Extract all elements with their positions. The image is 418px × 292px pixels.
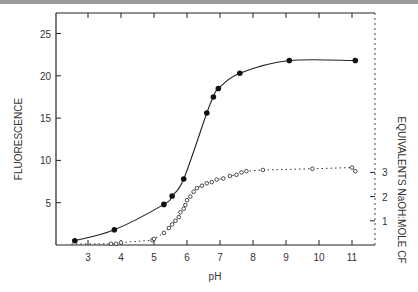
data-point — [200, 184, 204, 188]
data-point — [216, 86, 222, 92]
data-point — [222, 177, 226, 181]
data-point — [261, 168, 265, 172]
data-point — [215, 178, 219, 182]
fluorescence-series — [72, 58, 358, 244]
x-tick-label: 10 — [313, 252, 325, 263]
x-tick-label: 11 — [347, 252, 358, 263]
y-axis-title: FLUORESCENCE — [13, 98, 24, 181]
y2-tick-label: 2 — [382, 192, 388, 203]
y-axis-ticks: 510152025 — [40, 29, 61, 209]
y-tick-label: 20 — [40, 71, 52, 82]
x-axis-title: pH — [209, 271, 222, 282]
x-tick-label: 4 — [118, 252, 124, 263]
data-point — [235, 173, 239, 177]
data-point — [179, 211, 183, 215]
data-point — [240, 171, 244, 175]
data-point — [119, 241, 123, 245]
data-point — [237, 70, 243, 76]
plot-frame — [56, 13, 375, 245]
data-point — [354, 169, 358, 173]
data-point — [287, 58, 293, 64]
data-point — [353, 58, 359, 64]
data-point — [182, 207, 186, 211]
data-point — [210, 180, 214, 184]
data-point — [167, 226, 171, 230]
data-point — [181, 176, 187, 182]
y2-tick-label: 3 — [382, 167, 388, 178]
x-tick-label: 3 — [85, 252, 91, 263]
data-point — [161, 202, 167, 208]
y-tick-label: 5 — [45, 198, 51, 209]
y-tick-label: 25 — [40, 29, 52, 40]
data-point — [205, 181, 209, 185]
equivalents-series — [72, 166, 358, 246]
data-point — [162, 231, 166, 235]
y2-tick-label: 1 — [382, 216, 388, 227]
data-point — [228, 174, 232, 178]
data-point — [72, 238, 78, 244]
y2-axis-title: EQUIVALENTS NaOH:MOLE CF — [396, 116, 407, 263]
data-point — [169, 193, 175, 199]
data-point — [184, 203, 188, 207]
data-point — [109, 242, 113, 246]
data-point — [170, 223, 174, 227]
data-point — [350, 166, 354, 170]
y-tick-label: 15 — [40, 113, 52, 124]
x-tick-label: 5 — [151, 252, 157, 263]
data-point — [204, 110, 210, 116]
y-tick-label: 10 — [40, 155, 52, 166]
data-point — [245, 169, 249, 173]
data-point — [211, 94, 217, 100]
data-point — [112, 227, 118, 233]
data-point — [185, 198, 189, 202]
y2-axis-ticks: 123 — [370, 167, 388, 226]
x-tick-label: 7 — [217, 252, 223, 263]
data-point — [189, 195, 193, 199]
x-tick-label: 6 — [184, 252, 190, 263]
data-point — [114, 242, 118, 246]
data-point — [174, 219, 178, 223]
data-point — [192, 190, 196, 194]
data-point — [177, 215, 181, 219]
x-tick-label: 8 — [250, 252, 256, 263]
data-point — [195, 186, 199, 190]
x-tick-label: 9 — [283, 252, 289, 263]
x-axis-ticks: 34567891011 — [85, 13, 357, 263]
data-point — [311, 167, 315, 171]
data-point — [152, 237, 156, 241]
ph-fluorescence-chart: 34567891011 510152025 123 pH FLUORESCENC… — [0, 0, 418, 292]
